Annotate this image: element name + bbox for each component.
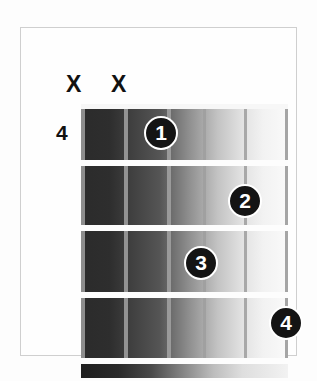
fret-position-label: 4 bbox=[56, 121, 68, 145]
figure-frame: X X 4 1 2 3 4 bbox=[20, 27, 297, 356]
fret-line-nut bbox=[81, 104, 288, 109]
fretboard bbox=[81, 104, 288, 378]
string-6-low-e bbox=[81, 104, 85, 378]
mute-marker-string-6: X bbox=[66, 73, 81, 96]
fret-line-4 bbox=[81, 358, 288, 364]
finger-dot-2: 2 bbox=[228, 184, 262, 218]
finger-dot-1: 1 bbox=[144, 116, 178, 150]
fretboard-gradient bbox=[81, 104, 288, 378]
finger-dot-4: 4 bbox=[269, 306, 303, 340]
string-3-g bbox=[203, 104, 206, 378]
string-2-b bbox=[244, 104, 247, 378]
fret-line-1 bbox=[81, 160, 288, 166]
fret-line-3 bbox=[81, 292, 288, 298]
finger-dot-3: 3 bbox=[184, 246, 218, 280]
mute-marker-string-5: X bbox=[111, 73, 126, 96]
fretboard-bottom-edge bbox=[81, 364, 288, 378]
string-5-a bbox=[124, 104, 128, 378]
chord-diagram: X X 4 1 2 3 4 bbox=[0, 0, 317, 381]
fret-line-2 bbox=[81, 225, 288, 231]
